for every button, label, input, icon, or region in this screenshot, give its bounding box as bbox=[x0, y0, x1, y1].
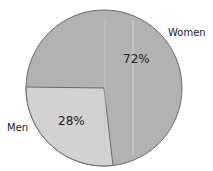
percent-men: 28% bbox=[58, 114, 85, 128]
label-women: Women bbox=[168, 27, 206, 38]
pie-chart bbox=[0, 0, 213, 171]
label-men: Men bbox=[7, 122, 28, 133]
percent-women: 72% bbox=[123, 52, 150, 66]
